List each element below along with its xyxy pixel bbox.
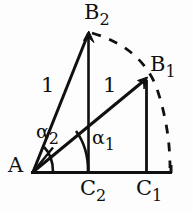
point-label-b1-base: B xyxy=(150,52,165,76)
length-label-ab1-value: 1 xyxy=(103,73,116,97)
point-label-b1-subscript: 1 xyxy=(165,62,175,81)
angle-label-alpha1-base: α xyxy=(92,126,105,148)
point-label-c1-base: C xyxy=(136,176,152,200)
angle-label-alpha2: α2 xyxy=(36,122,59,141)
angle-label-alpha2-subscript: 2 xyxy=(49,129,59,148)
point-label-b2-subscript: 2 xyxy=(99,10,109,29)
point-label-c1: C1 xyxy=(136,178,162,199)
point-label-c2-base: C xyxy=(80,176,96,200)
point-label-c2: C2 xyxy=(80,178,106,199)
point-label-b1: B1 xyxy=(150,54,176,75)
angle-arc-alpha1 xyxy=(76,131,88,172)
angle-label-alpha1-subscript: 1 xyxy=(105,135,115,154)
segment-a-b2 xyxy=(33,33,89,172)
point-label-a-base: A xyxy=(8,153,23,177)
angle-label-alpha2-base: α xyxy=(36,120,49,142)
point-label-c1-subscript: 1 xyxy=(152,186,162,205)
point-label-c2-subscript: 2 xyxy=(96,186,106,205)
point-label-b2: B2 xyxy=(84,2,110,23)
length-label-ab2: 1 xyxy=(41,75,54,96)
length-label-ab1: 1 xyxy=(103,75,116,96)
point-label-a: A xyxy=(8,155,23,176)
angle-label-alpha1: α1 xyxy=(92,128,115,147)
point-label-b2-base: B xyxy=(84,0,99,24)
length-label-ab2-value: 1 xyxy=(41,73,54,97)
geometry-figure: B2 B1 A C2 C1 1 1 α2 α1 xyxy=(0,0,193,214)
